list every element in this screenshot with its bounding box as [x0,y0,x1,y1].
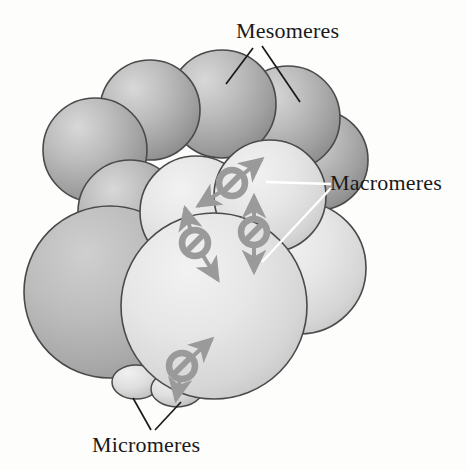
embryo-diagram-figure: Mesomeres Macromeres Micromeres [0,0,467,470]
diagram-canvas: Mesomeres Macromeres Micromeres [0,0,467,470]
label-mesomeres: Mesomeres [236,18,339,43]
label-micromeres: Micromeres [92,432,200,457]
label-macromeres: Macromeres [330,170,442,195]
macromere-cell-front [121,213,307,399]
